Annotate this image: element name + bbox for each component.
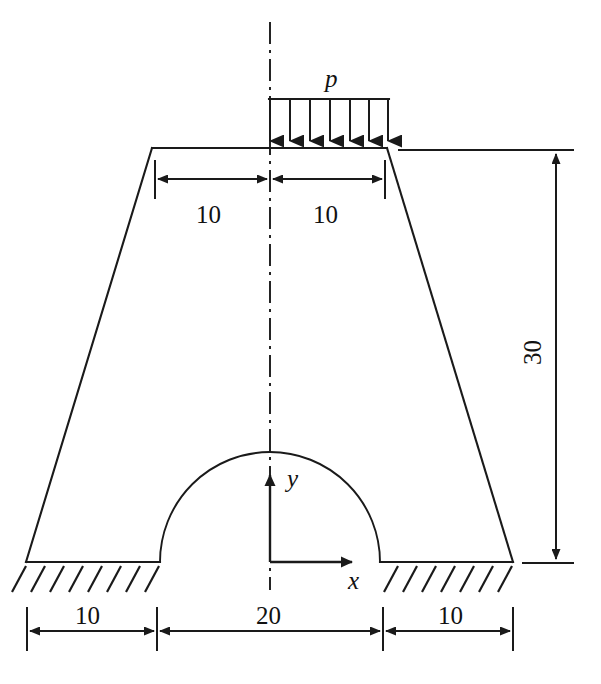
structure-right-edge	[387, 148, 513, 562]
top-right-dimension-label: 10	[313, 202, 338, 227]
left-support-hatching	[12, 566, 159, 592]
axis-y-label: y	[287, 466, 298, 491]
structure-left-edge	[26, 148, 152, 562]
engineering-diagram	[0, 0, 601, 684]
coordinate-axes	[270, 475, 352, 562]
load-label-p: p	[325, 66, 338, 91]
right-support-hatching	[384, 566, 512, 592]
axis-x-label: x	[348, 568, 359, 593]
bottom-center-dimension-label: 20	[256, 603, 281, 628]
height-dimension-label: 30	[520, 340, 545, 365]
load-arrows	[270, 99, 388, 141]
distributed-load-group	[269, 99, 389, 141]
top-left-dimension-label: 10	[196, 202, 221, 227]
bottom-left-dimension-label: 10	[75, 603, 100, 628]
bottom-right-dimension-label: 10	[438, 603, 463, 628]
height-dimension-group	[398, 150, 574, 563]
